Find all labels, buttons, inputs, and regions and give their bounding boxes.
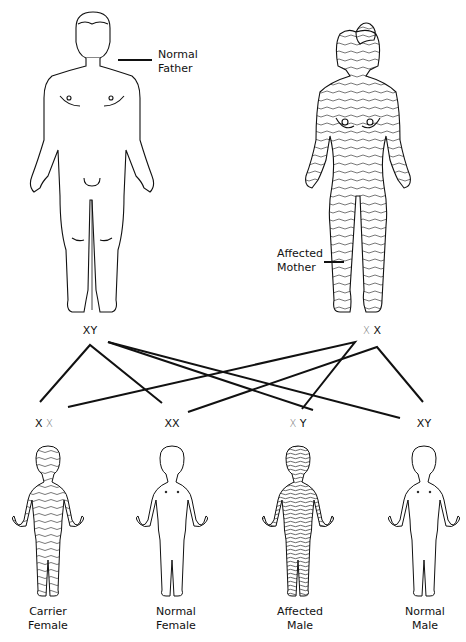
- allele-normal-x: X: [417, 417, 425, 430]
- father-figure: [30, 12, 153, 312]
- child-label-line2: Female: [28, 619, 68, 633]
- child-normal-female-genotype: XX: [164, 417, 179, 430]
- child-affected-male-genotype: X Y: [289, 417, 306, 430]
- child-label-line1: Affected: [277, 605, 323, 619]
- allele-normal-x: X: [83, 324, 91, 337]
- child-label-line2: Female: [156, 619, 196, 633]
- child-label-line1: Normal: [405, 605, 445, 619]
- allele-affected-x: X: [46, 418, 53, 429]
- mother-label-line1: Affected: [277, 247, 323, 261]
- child-label-line2: Male: [405, 619, 445, 633]
- child-carrier-female-genotype: X X: [35, 417, 53, 430]
- child-normal-male-label: Normal Male: [405, 605, 445, 633]
- child-affected-male-figure: [262, 446, 333, 596]
- allele-affected-x: X: [363, 325, 370, 336]
- child-label-line1: Normal: [156, 605, 196, 619]
- child-affected-male-label: Affected Male: [277, 605, 323, 633]
- diagram-artwork: [0, 0, 466, 642]
- allele-y: Y: [90, 324, 97, 337]
- allele-affected-x: X: [289, 418, 296, 429]
- child-carrier-female-label: Carrier Female: [28, 605, 68, 633]
- allele-normal-x: X: [172, 417, 180, 430]
- father-label: Normal Father: [158, 48, 198, 76]
- child-normal-male-figure: [388, 446, 459, 596]
- child-carrier-female-figure: [12, 446, 83, 596]
- allele-normal-x: X: [35, 417, 43, 430]
- allele-normal-x: X: [373, 324, 381, 337]
- inheritance-lines: [40, 342, 423, 418]
- mother-label: Affected Mother: [277, 247, 323, 275]
- father-label-line1: Normal: [158, 48, 198, 62]
- mother-label-line2: Mother: [277, 261, 323, 275]
- father-label-line2: Father: [158, 62, 198, 76]
- child-normal-male-genotype: XY: [417, 417, 431, 430]
- allele-y: Y: [300, 417, 307, 430]
- inheritance-diagram: Normal Father Affected Mother XY X X X X…: [0, 0, 466, 642]
- father-genotype: XY: [83, 324, 97, 337]
- child-normal-female-figure: [136, 446, 207, 596]
- child-label-line1: Carrier: [28, 605, 68, 619]
- child-label-line2: Male: [277, 619, 323, 633]
- child-normal-female-label: Normal Female: [156, 605, 196, 633]
- allele-normal-x: X: [164, 417, 172, 430]
- allele-y: Y: [424, 417, 431, 430]
- mother-genotype: X X: [363, 324, 381, 337]
